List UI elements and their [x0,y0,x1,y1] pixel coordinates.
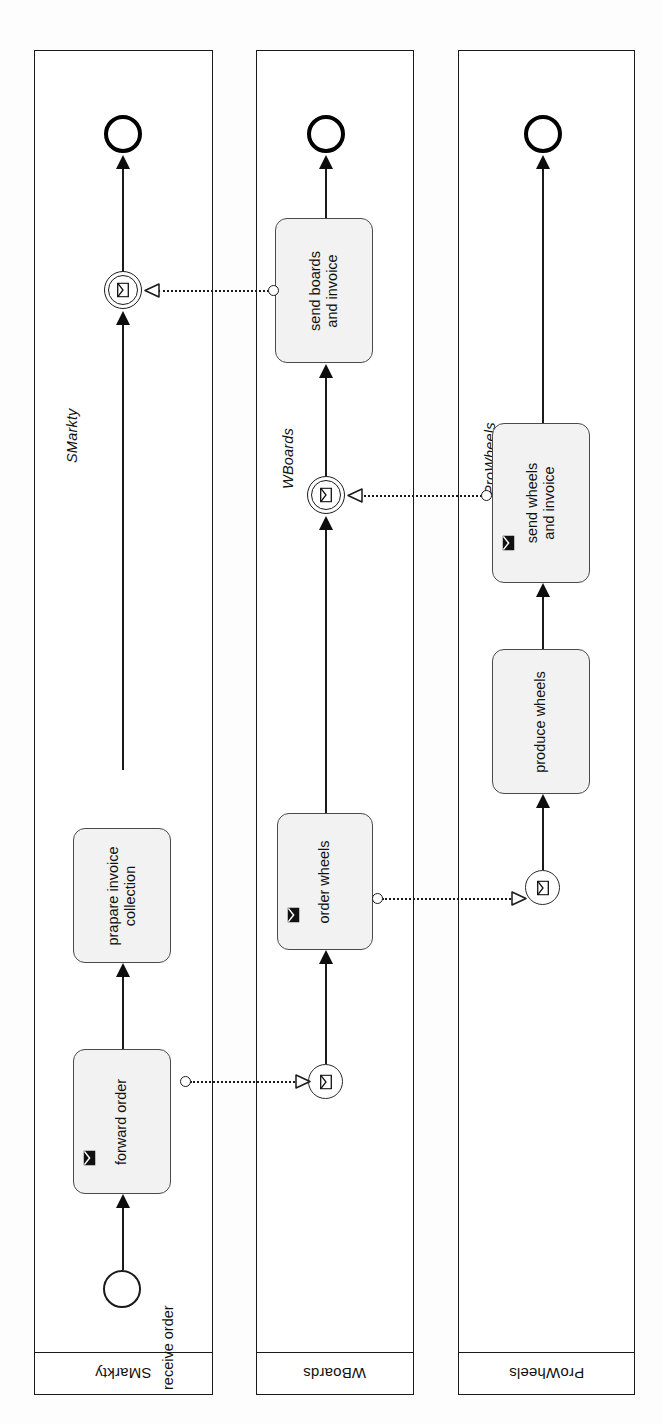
sequence-flow-wboardsstart-to-orderwheels [325,964,327,1064]
task-produce-wheels[interactable]: produce wheels [492,649,590,794]
sequence-flow-arrow [116,963,130,977]
message-flow-send-boards [158,290,273,292]
sequence-flow-receive-to-forward [122,1208,124,1270]
message-envelope-icon [537,880,549,895]
message-flow-send-wheels [360,495,486,497]
message-flow-order-wheels [382,898,518,900]
message-envelope-icon [320,488,332,503]
pool-name-wboards: WBoards [280,428,296,489]
sequence-flow-arrow [116,311,130,325]
task-label: send boards and invoice [307,251,342,331]
task-forward-order[interactable]: forward order [73,1049,171,1194]
message-flow-forward-order [190,1081,302,1083]
start-event-label-receive-order: receive order [160,1305,176,1390]
task-label-line1: send wheels [524,463,540,544]
pool-header-prowheels: ProWheels [459,1352,634,1394]
send-envelope-icon [503,536,515,551]
end-event-smarkty[interactable] [104,115,142,153]
sequence-flow-produce-to-sendwheels [542,597,544,649]
sequence-flow-intermediate-to-sendboards [325,377,327,476]
message-envelope-icon [320,1074,332,1089]
send-envelope-icon [288,908,300,923]
pool-name-smarkty: SMarkty [64,408,80,463]
task-label-line1: prapare invoice [105,846,121,945]
start-event-wboards[interactable] [308,1064,343,1099]
pool-header-smarkty: SMarkty [35,1352,212,1394]
pool-header-label-prowheels: ProWheels [509,1365,584,1382]
message-flow-source-dot [372,893,383,904]
sequence-flow-arrow [116,1194,130,1208]
message-flow-source-dot [481,490,492,501]
task-label: prapare invoice collection [105,846,140,945]
sequence-flow-arrow [319,516,333,530]
end-event-wboards[interactable] [307,115,345,153]
task-label-line1: send boards [307,251,323,331]
start-event-prowheels[interactable] [525,870,560,905]
sequence-flow-arrow [116,155,130,169]
task-prapare-invoice-collection[interactable]: prapare invoice collection [73,828,171,963]
task-label: forward order [113,1078,130,1164]
sequence-flow-sendboards-to-end [325,168,327,218]
bpmn-diagram-canvas: SMarkty SMarkty prapare invoice collecti… [0,0,663,1424]
sequence-flow-orderwheels-to-intermediate [325,529,327,813]
task-label-line2: and invoice [541,466,557,539]
sequence-flow-smarkty-to-end [122,168,124,271]
sequence-flow-arrow [536,583,550,597]
sequence-flow-prowheelsstart-to-produce [542,808,544,870]
sequence-flow-arrow [536,155,550,169]
send-envelope-icon [84,1151,96,1166]
pool-header-label-smarkty: SMarkty [95,1365,151,1382]
intermediate-message-event-wboards[interactable] [307,476,345,514]
sequence-flow-sendwheels-to-end [542,168,544,423]
sequence-flow-arrow [319,155,333,169]
message-envelope-icon [117,283,129,298]
task-send-boards-and-invoice[interactable]: send boards and invoice [275,218,373,363]
task-label-line2: and invoice [324,254,340,327]
task-label: send wheels and invoice [524,463,559,544]
message-flow-source-dot [180,1076,191,1087]
message-flow-source-dot [268,285,279,296]
task-label-line2: collection [122,865,138,925]
pool-header-wboards: WBoards [257,1352,413,1394]
task-order-wheels[interactable]: order wheels [277,813,373,950]
sequence-flow-arrow [319,950,333,964]
intermediate-message-event-smarkty[interactable] [104,271,142,309]
task-label: order wheels [316,840,333,923]
sequence-flow-arrow [536,794,550,808]
task-send-wheels-and-invoice[interactable]: send wheels and invoice [492,423,590,583]
start-event-receive-order[interactable] [103,1270,141,1308]
pool-header-label-wboards: WBoards [303,1365,366,1382]
sequence-flow-arrow [319,364,333,378]
end-event-prowheels[interactable] [524,115,562,153]
sequence-flow-forward-to-prapare [122,977,124,1049]
sequence-flow-prapare-to-intermediate [122,324,124,770]
task-label: produce wheels [532,671,549,773]
